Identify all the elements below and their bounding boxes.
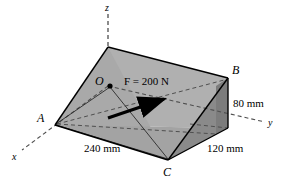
dimension-label-depth: 120 mm [207,143,243,154]
point-label-o: O [95,75,104,87]
dimension-label-height: 80 mm [233,98,264,109]
axis-label-z: z [105,3,109,13]
axis-label-y: y [268,118,272,128]
statics-figure: z y x O A B C F = 200 N 240 mm 80 mm 120… [0,0,285,189]
point-o-dot [107,83,112,88]
point-label-c: C [163,166,171,178]
point-label-b: B [232,64,239,76]
dimension-label-base-length: 240 mm [84,143,120,154]
axis-label-x: x [12,152,16,162]
point-label-a: A [37,112,44,124]
wedge-diagram-svg [0,0,285,189]
force-label: F = 200 N [124,76,169,87]
